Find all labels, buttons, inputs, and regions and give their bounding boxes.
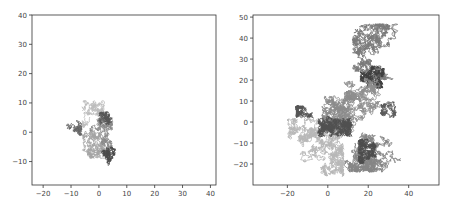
y-tick-label: 10 (239, 98, 248, 106)
x-tick-label: 0 (326, 190, 330, 198)
axes-frame (32, 15, 216, 185)
x-tick-label: −20 (280, 190, 295, 198)
y-tick-label: 30 (18, 41, 27, 49)
x-tick-label: −20 (36, 190, 51, 198)
y-tick-label: 20 (239, 77, 248, 85)
x-tick-label: 30 (178, 190, 187, 198)
x-tick-label: 40 (206, 190, 215, 198)
y-tick-label: 50 (239, 14, 248, 22)
series-walk-dark-left (296, 105, 314, 118)
plot-area (288, 24, 401, 177)
y-tick-label: 40 (239, 35, 248, 43)
series-walk-dark2 (102, 147, 116, 166)
x-tick-label: 0 (97, 190, 101, 198)
y-tick-label: 30 (239, 56, 248, 64)
series-walk-dark3 (66, 120, 82, 135)
x-tick-label: 40 (404, 190, 413, 198)
y-tick-label: 0 (23, 129, 27, 137)
plot-area (66, 100, 115, 165)
x-tick-label: 20 (150, 190, 159, 198)
y-tick-label: −10 (233, 140, 248, 148)
series-walk-dark-ne (381, 102, 397, 118)
x-tick-label: 10 (122, 190, 131, 198)
y-tick-label: −10 (12, 158, 27, 166)
y-tick-label: 0 (244, 119, 248, 127)
y-tick-label: 10 (18, 99, 27, 107)
x-tick-label: 20 (364, 190, 373, 198)
y-tick-label: 40 (18, 12, 27, 20)
figure: −20−10010203040−10010203040 −2002040−20−… (0, 0, 453, 205)
y-tick-label: −20 (233, 161, 248, 169)
x-tick-label: −10 (64, 190, 79, 198)
right-random-walk-chart: −2002040−20−1001020304050 (233, 14, 439, 198)
y-tick-label: 20 (18, 70, 27, 78)
left-random-walk-chart: −20−10010203040−10010203040 (12, 12, 216, 199)
